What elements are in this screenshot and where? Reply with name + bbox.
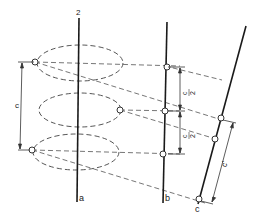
axis-b-label: b	[165, 193, 170, 203]
projection-lines	[32, 62, 222, 203]
dim-c-half-lower-label: c 2	[181, 132, 196, 139]
orbit-ellipse-top	[37, 45, 123, 81]
axis-a-label: a	[79, 193, 84, 203]
svg-text:2: 2	[189, 91, 196, 95]
dim-c-label: c	[15, 101, 19, 110]
projection-points	[29, 59, 224, 202]
svg-text:c: c	[181, 134, 188, 138]
point-b-bottom	[160, 151, 166, 157]
point-a-middle	[117, 107, 123, 113]
dimension-c-prime	[201, 120, 236, 204]
point-b-middle	[162, 108, 168, 114]
dim-c-half-upper-label: c 2	[181, 89, 196, 96]
point-c-middle	[212, 136, 218, 142]
projection-diagram: c c 2 c 2 c' 2 a b c	[0, 0, 257, 222]
axis-a	[77, 18, 79, 202]
dimension-c-half-upper	[168, 67, 185, 111]
svg-text:2: 2	[189, 134, 196, 138]
dimension-c-left	[18, 62, 34, 150]
dim-c-prime-label: c'	[219, 160, 229, 168]
axis-top-label: 2	[76, 8, 81, 17]
orbit-ellipse-middle	[39, 93, 121, 127]
axis-c-label: c	[195, 204, 200, 214]
dimension-c-half-lower	[168, 112, 185, 154]
svg-text:c: c	[181, 91, 188, 95]
